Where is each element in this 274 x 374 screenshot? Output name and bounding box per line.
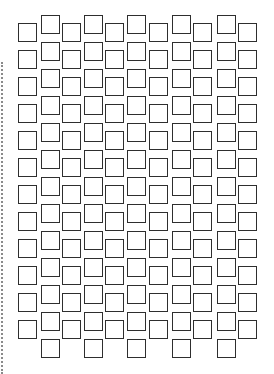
grid-square bbox=[149, 212, 168, 231]
grid-square bbox=[149, 104, 168, 123]
grid-square bbox=[84, 150, 103, 169]
grid-square bbox=[172, 339, 191, 358]
grid-square bbox=[62, 185, 81, 204]
grid-square bbox=[217, 123, 236, 142]
grid-square bbox=[62, 77, 81, 96]
grid-square bbox=[84, 42, 103, 61]
grid-square bbox=[41, 312, 60, 331]
grid-square bbox=[172, 258, 191, 277]
grid-square bbox=[193, 104, 212, 123]
grid-square bbox=[217, 150, 236, 169]
grid-square bbox=[193, 23, 212, 42]
grid-square bbox=[105, 320, 124, 339]
grid-square bbox=[105, 212, 124, 231]
grid-square bbox=[238, 293, 257, 312]
grid-square bbox=[217, 312, 236, 331]
grid-square bbox=[84, 231, 103, 250]
grid-square bbox=[172, 69, 191, 88]
grid-square bbox=[18, 77, 37, 96]
grid-square bbox=[217, 15, 236, 34]
grid-square bbox=[238, 131, 257, 150]
grid-square bbox=[127, 150, 146, 169]
grid-square bbox=[172, 42, 191, 61]
grid-square bbox=[41, 42, 60, 61]
grid-square bbox=[62, 131, 81, 150]
grid-square bbox=[62, 158, 81, 177]
grid-square bbox=[41, 285, 60, 304]
grid-square bbox=[238, 50, 257, 69]
grid-square bbox=[238, 239, 257, 258]
grid-square bbox=[217, 258, 236, 277]
grid-square bbox=[41, 15, 60, 34]
grid-square bbox=[84, 312, 103, 331]
grid-square bbox=[238, 212, 257, 231]
grid-square bbox=[41, 339, 60, 358]
grid-square bbox=[238, 185, 257, 204]
grid-square bbox=[193, 266, 212, 285]
grid-square bbox=[84, 15, 103, 34]
grid-square bbox=[217, 42, 236, 61]
grid-square bbox=[127, 69, 146, 88]
grid-square bbox=[84, 285, 103, 304]
grid-square bbox=[62, 23, 81, 42]
grid-square bbox=[62, 239, 81, 258]
grid-square bbox=[127, 339, 146, 358]
grid-square bbox=[62, 50, 81, 69]
grid-square bbox=[172, 123, 191, 142]
grid-square bbox=[84, 123, 103, 142]
grid-square bbox=[193, 293, 212, 312]
grid-square bbox=[149, 320, 168, 339]
grid-square bbox=[105, 239, 124, 258]
grid-square bbox=[84, 204, 103, 223]
grid-square bbox=[41, 204, 60, 223]
grid-square bbox=[193, 158, 212, 177]
grid-square bbox=[18, 185, 37, 204]
grid-square bbox=[149, 185, 168, 204]
grid-square bbox=[149, 239, 168, 258]
grid-square bbox=[62, 104, 81, 123]
grid-square bbox=[149, 158, 168, 177]
grid-square bbox=[149, 50, 168, 69]
grid-square bbox=[127, 96, 146, 115]
grid-square bbox=[172, 285, 191, 304]
grid-square bbox=[18, 131, 37, 150]
grid-square bbox=[84, 339, 103, 358]
grid-square bbox=[193, 131, 212, 150]
grid-square bbox=[84, 96, 103, 115]
grid-square bbox=[172, 150, 191, 169]
grid-square bbox=[18, 266, 37, 285]
grid-square bbox=[127, 123, 146, 142]
grid-square bbox=[127, 312, 146, 331]
grid-square bbox=[18, 293, 37, 312]
grid-square bbox=[193, 212, 212, 231]
grid-square bbox=[172, 204, 191, 223]
grid-square bbox=[238, 320, 257, 339]
grid-square bbox=[193, 239, 212, 258]
grid-square bbox=[105, 104, 124, 123]
grid-square bbox=[172, 15, 191, 34]
grid-square bbox=[18, 212, 37, 231]
grid-square bbox=[41, 258, 60, 277]
grid-square bbox=[105, 131, 124, 150]
grid-square bbox=[149, 293, 168, 312]
grid-square bbox=[238, 77, 257, 96]
grid-square bbox=[41, 96, 60, 115]
grid-square bbox=[217, 339, 236, 358]
grid-square bbox=[84, 177, 103, 196]
grid-square bbox=[84, 258, 103, 277]
grid-square bbox=[172, 231, 191, 250]
grid-square bbox=[149, 131, 168, 150]
grid-square bbox=[18, 23, 37, 42]
grid-square bbox=[149, 23, 168, 42]
grid-square bbox=[105, 158, 124, 177]
grid-square bbox=[127, 231, 146, 250]
grid-square bbox=[149, 266, 168, 285]
grid-square bbox=[62, 293, 81, 312]
grid-square bbox=[105, 23, 124, 42]
grid-square bbox=[84, 69, 103, 88]
grid-square bbox=[238, 266, 257, 285]
grid-square bbox=[127, 285, 146, 304]
grid-square bbox=[172, 96, 191, 115]
grid-square bbox=[105, 77, 124, 96]
grid-square bbox=[238, 104, 257, 123]
